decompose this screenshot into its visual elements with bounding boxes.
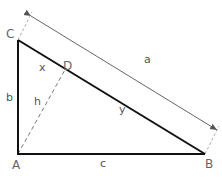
extension-line-b	[205, 126, 219, 154]
side-label-c: c	[100, 158, 106, 169]
side-label-b: b	[6, 92, 13, 103]
altitude-label-h: h	[34, 96, 41, 107]
hypotenuse-cb	[18, 40, 205, 154]
segment-label-y: y	[119, 104, 126, 115]
triangle-diagram	[0, 0, 222, 186]
vertex-label-d: D	[63, 60, 72, 72]
side-label-a: a	[144, 54, 151, 65]
altitude-h	[18, 68, 66, 154]
extension-line-c	[18, 12, 32, 40]
vertex-label-c: C	[6, 28, 14, 40]
vertex-label-b: B	[205, 158, 213, 170]
segment-label-x: x	[39, 62, 46, 73]
vertex-label-a: A	[12, 159, 20, 171]
